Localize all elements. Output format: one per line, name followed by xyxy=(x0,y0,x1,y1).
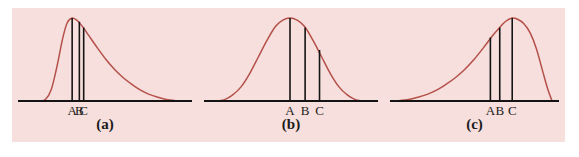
panel-b-caption: (b) xyxy=(198,116,384,133)
panel-c-caption: (c) xyxy=(384,116,565,133)
panel-a-caption: (a) xyxy=(12,116,198,133)
density-curve xyxy=(396,18,552,101)
panel-a: ABC (a) xyxy=(12,8,198,142)
figure-plate: ABC (a) ABC (b) ABC (c) xyxy=(12,8,565,142)
panel-a-plot xyxy=(12,8,198,118)
panel-b: ABC (b) xyxy=(198,8,384,142)
figure-container: ABC (a) ABC (b) ABC (c) xyxy=(0,0,579,157)
density-curve xyxy=(34,18,178,101)
panel-b-plot xyxy=(198,8,384,118)
panel-c: ABC (c) xyxy=(384,8,565,142)
panel-c-plot xyxy=(384,8,565,118)
